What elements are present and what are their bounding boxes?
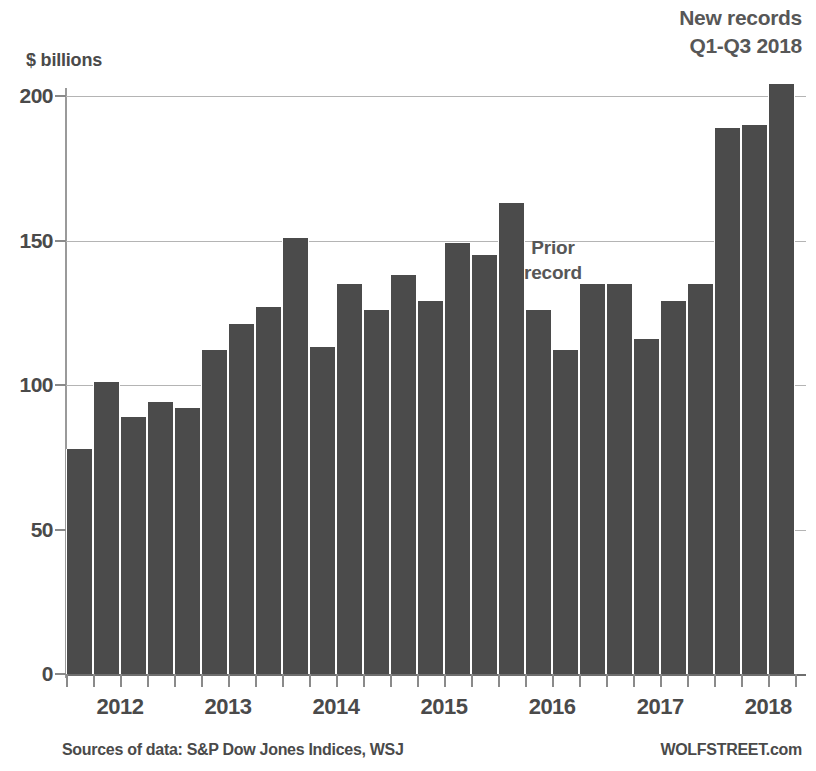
sources-label: Sources of data: S&P Dow Jones Indices, … xyxy=(62,741,404,759)
prior-record-annotation: Prior record xyxy=(524,236,582,285)
x-axis-year-label: 2014 xyxy=(313,694,360,720)
x-tick-mark xyxy=(714,674,716,687)
chart-figure: New records Q1-Q3 2018 $ billions 050100… xyxy=(0,0,816,771)
x-tick-mark xyxy=(741,674,743,687)
x-tick-mark xyxy=(255,674,257,687)
x-axis-year-label: 2017 xyxy=(637,694,684,720)
x-tick-mark xyxy=(390,674,392,687)
x-tick-mark xyxy=(606,674,608,687)
x-tick-mark xyxy=(579,674,581,687)
x-axis-year-label: 2013 xyxy=(205,694,252,720)
y-tick-label-200: 200 xyxy=(19,84,53,108)
x-tick-mark xyxy=(363,674,365,687)
bar xyxy=(552,350,579,674)
x-tick-mark xyxy=(498,674,500,687)
bar xyxy=(255,307,282,674)
x-tick-mark xyxy=(93,674,95,687)
plot-area: 050100150200 201220132014201520162017201… xyxy=(66,96,806,674)
bar xyxy=(660,301,687,674)
x-tick-mark xyxy=(282,674,284,687)
y-tick-label-50: 50 xyxy=(31,518,53,542)
bar xyxy=(120,417,147,674)
bar xyxy=(471,255,498,674)
bar xyxy=(336,284,363,674)
x-tick-mark xyxy=(120,674,122,687)
x-tick-mark xyxy=(147,674,149,687)
x-tick-mark xyxy=(444,674,446,687)
x-tick-mark xyxy=(795,674,797,687)
bar xyxy=(444,243,471,674)
bar xyxy=(606,284,633,674)
x-tick-mark xyxy=(336,674,338,687)
x-tick-mark xyxy=(174,674,176,687)
prior-record-line2: record xyxy=(524,261,582,286)
x-tick-mark xyxy=(633,674,635,687)
y-tick-label-100: 100 xyxy=(19,373,53,397)
bar xyxy=(201,350,228,674)
bar xyxy=(282,238,309,674)
bar xyxy=(525,310,552,674)
x-tick-mark xyxy=(66,674,68,687)
y-tick-label-150: 150 xyxy=(19,229,53,253)
bar xyxy=(768,84,795,674)
bar xyxy=(228,324,255,674)
prior-record-line1: Prior xyxy=(524,236,582,261)
x-tick-mark xyxy=(309,674,311,687)
y-tick-label-0: 0 xyxy=(42,662,53,686)
y-tick-mark-200 xyxy=(55,95,66,97)
y-tick-mark-50 xyxy=(55,529,66,531)
y-axis-unit-label: $ billions xyxy=(26,50,102,71)
bar xyxy=(741,125,768,674)
x-axis-year-label: 2015 xyxy=(421,694,468,720)
bar xyxy=(417,301,444,674)
bar xyxy=(714,128,741,674)
brand-label: WOLFSTREET.com xyxy=(660,741,802,759)
x-tick-mark xyxy=(768,674,770,687)
y-tick-mark-150 xyxy=(55,240,66,242)
bar xyxy=(687,284,714,674)
new-records-line1: New records xyxy=(679,4,802,32)
x-axis-year-label: 2016 xyxy=(529,694,576,720)
x-tick-mark xyxy=(201,674,203,687)
bar xyxy=(147,402,174,674)
x-tick-mark xyxy=(471,674,473,687)
x-tick-mark xyxy=(687,674,689,687)
bar xyxy=(633,339,660,674)
x-axis-year-label: 2012 xyxy=(97,694,144,720)
bar xyxy=(498,203,525,674)
gridline-0 xyxy=(66,674,806,676)
bar xyxy=(363,310,390,674)
bars-group xyxy=(66,96,806,674)
x-tick-mark xyxy=(228,674,230,687)
y-tick-mark-0 xyxy=(55,673,66,675)
x-tick-mark xyxy=(660,674,662,687)
x-axis-year-label: 2018 xyxy=(745,694,792,720)
new-records-line2: Q1-Q3 2018 xyxy=(679,32,802,60)
x-tick-mark xyxy=(525,674,527,687)
bar xyxy=(579,284,606,674)
bar xyxy=(309,347,336,674)
y-tick-mark-100 xyxy=(55,384,66,386)
bar xyxy=(66,449,93,674)
bar xyxy=(174,408,201,674)
chart-footer: Sources of data: S&P Dow Jones Indices, … xyxy=(0,741,816,763)
new-records-annotation: New records Q1-Q3 2018 xyxy=(679,4,802,59)
bar xyxy=(390,275,417,674)
x-tick-mark xyxy=(417,674,419,687)
x-tick-mark xyxy=(552,674,554,687)
bar xyxy=(93,382,120,674)
